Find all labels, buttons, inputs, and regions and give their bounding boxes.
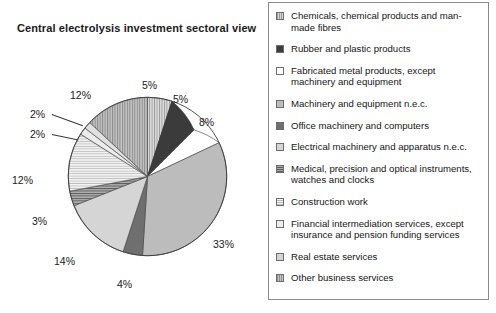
legend-swatch-icon-construction-work	[276, 198, 284, 206]
legend-swatch-icon-medical-precision	[276, 165, 284, 173]
legend-label-other-business-services: Other business services	[291, 272, 393, 284]
legend-label-machinery-equipment: Machinery and equipment n.e.c.	[291, 98, 428, 110]
pie-label-machinery-equipment: 33%	[213, 239, 234, 250]
legend-swatch-icon-other-business-services	[276, 274, 284, 282]
legend-swatch-icon-machinery-equipment	[276, 100, 284, 108]
pie-label-chemicals: 5%	[142, 80, 157, 91]
legend-item-electrical-machinery[interactable]: Electrical machinery and apparatus n.e.c…	[276, 141, 480, 153]
legend-label-chemicals: Chemicals, chemical products and man-mad…	[291, 10, 480, 33]
legend-label-construction-work: Construction work	[291, 196, 368, 208]
pie-label-financial-intermediation: 2%	[30, 129, 45, 140]
pie-label-rubber-plastic: 5%	[173, 94, 188, 105]
legend: Chemicals, chemical products and man-mad…	[268, 2, 489, 300]
legend-swatch-icon-fabricated-metal	[276, 67, 284, 75]
pie-label-real-estate: 2%	[30, 109, 45, 120]
legend-swatch-icon-electrical-machinery	[276, 143, 284, 151]
pie-label-medical-precision: 3%	[32, 216, 47, 227]
legend-label-rubber-plastic: Rubber and plastic products	[291, 43, 410, 55]
page-title: Central electrolysis investment sectoral…	[17, 22, 256, 34]
legend-label-financial-intermediation: Financial intermediation services, excep…	[291, 218, 480, 241]
legend-item-office-machinery[interactable]: Office machinery and computers	[276, 120, 480, 132]
legend-item-rubber-plastic[interactable]: Rubber and plastic products	[276, 43, 480, 55]
legend-label-medical-precision: Medical, precision and optical instrumen…	[291, 163, 480, 186]
legend-item-fabricated-metal[interactable]: Fabricated metal products, except machin…	[276, 65, 480, 88]
pie-label-office-machinery: 4%	[117, 279, 132, 290]
legend-swatch-icon-rubber-plastic	[276, 45, 284, 53]
chart-figure: Central electrolysis investment sectoral…	[0, 0, 496, 313]
legend-item-real-estate[interactable]: Real estate services	[276, 251, 480, 263]
pie-label-fabricated-metal: 8%	[199, 117, 214, 128]
legend-swatch-icon-office-machinery	[276, 122, 284, 130]
legend-item-other-business-services[interactable]: Other business services	[276, 272, 480, 284]
legend-item-machinery-equipment[interactable]: Machinery and equipment n.e.c.	[276, 98, 480, 110]
pie-label-construction-work: 12%	[12, 175, 33, 186]
legend-swatch-icon-chemicals	[276, 12, 284, 20]
legend-label-office-machinery: Office machinery and computers	[291, 120, 429, 132]
legend-item-medical-precision[interactable]: Medical, precision and optical instrumen…	[276, 163, 480, 186]
pie-label-other-business-services: 12%	[70, 90, 91, 101]
pie-chart-area: 5% 5% 8% 33% 4% 14% 3% 12% 2% 2% 12%	[10, 72, 260, 307]
legend-label-fabricated-metal: Fabricated metal products, except machin…	[291, 65, 480, 88]
legend-swatch-icon-real-estate	[276, 253, 284, 261]
legend-item-construction-work[interactable]: Construction work	[276, 196, 480, 208]
legend-label-real-estate: Real estate services	[291, 251, 377, 263]
legend-label-electrical-machinery: Electrical machinery and apparatus n.e.c…	[291, 141, 467, 153]
pie-label-electrical-machinery: 14%	[54, 256, 75, 267]
legend-item-financial-intermediation[interactable]: Financial intermediation services, excep…	[276, 218, 480, 241]
legend-item-chemicals[interactable]: Chemicals, chemical products and man-mad…	[276, 10, 480, 33]
legend-swatch-icon-financial-intermediation	[276, 220, 284, 228]
